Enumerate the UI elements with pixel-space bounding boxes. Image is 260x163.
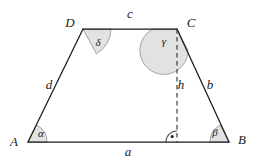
side-label-c: c [127,6,133,21]
vertex-label-C: C [187,15,196,30]
right-angle-dot [171,135,174,138]
vertex-label-D: D [64,15,75,30]
angle-label-delta: δ [95,36,101,48]
vertex-label-A: A [9,134,18,149]
side-d-line [28,29,83,142]
angle-label-beta: β [211,126,218,138]
side-b-line [177,29,229,142]
side-label-d: d [46,77,53,92]
side-label-a: a [125,144,132,159]
height-label-h: h [178,77,185,92]
vertex-label-B: B [238,132,246,147]
trapezoid-figure: A B C D a b c d h α β γ δ [0,0,260,163]
angle-label-gamma: γ [162,35,167,47]
angle-label-alpha: α [38,127,44,139]
side-label-b: b [207,77,214,92]
diagram-canvas: A B C D a b c d h α β γ δ [0,0,260,163]
